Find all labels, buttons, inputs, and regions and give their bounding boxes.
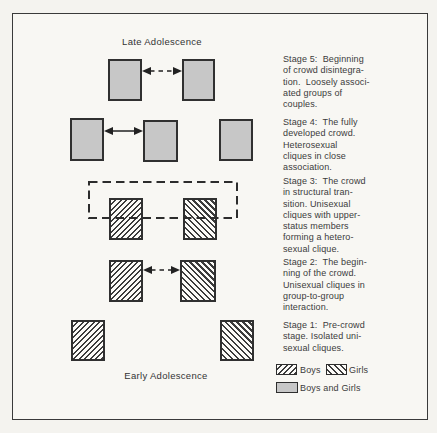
late-adolescence-label: Late Adolescence: [97, 36, 227, 47]
stage1-girls-box: [220, 320, 254, 361]
stage4-right-mixed-box: [219, 119, 253, 161]
stage5-left-mixed-box: [108, 59, 142, 101]
stage-3-description: Stage 3: The crowd in structural tran- s…: [283, 176, 433, 255]
stage2-boys-box: [109, 260, 143, 302]
stage3-boys-box: [109, 198, 143, 240]
stage1-boys-box: [71, 320, 105, 361]
stage2-girls-box: [180, 260, 216, 302]
diagram-canvas: Late Adolescence Early Adolescence: [0, 0, 437, 433]
stage4-left-mixed-box: [70, 118, 104, 161]
stage-4-description: Stage 4: The fully developed crowd. Hete…: [283, 117, 433, 173]
early-adolescence-label: Early Adolescence: [101, 370, 231, 381]
legend-girls-swatch: [326, 364, 347, 375]
stage4-middle-mixed-box: [143, 120, 178, 162]
legend-girls-label: Girls: [349, 365, 368, 375]
legend-boys-label: Boys: [300, 365, 321, 375]
legend-mixed-swatch: [276, 382, 298, 393]
stage5-right-mixed-box: [182, 59, 215, 101]
legend-mixed-label: Boys and Girls: [300, 383, 361, 393]
stage-2-description: Stage 2: The begin- ning of the crowd. U…: [283, 257, 433, 313]
legend-boys-swatch: [276, 364, 297, 375]
stage-1-description: Stage 1: Pre-crowd stage. Isolated uni- …: [283, 320, 433, 354]
stage3-girls-box: [183, 198, 217, 240]
stage-5-description: Stage 5: Beginning of crowd disintegra- …: [283, 54, 433, 110]
